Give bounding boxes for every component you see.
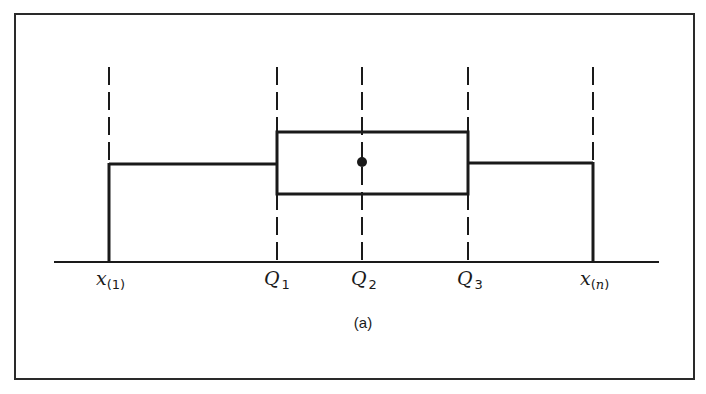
box-plot-figure: x(1) Q1 Q2 Q3 x(n) (a) [0,0,706,394]
label-x-max: x(n) [580,267,609,292]
interquartile-box [277,132,468,194]
figure-caption: (a) [354,314,372,331]
label-q2: Q2 [351,267,377,292]
label-q1: Q1 [264,267,290,292]
label-q3: Q3 [457,267,483,292]
median-dot [357,157,367,167]
label-x-min: x(1) [96,267,125,292]
